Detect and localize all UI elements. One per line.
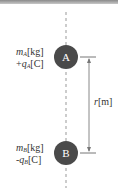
distance-unit: [m] [98, 96, 112, 107]
particle-b-charge-label: -qB[C] [16, 154, 41, 168]
charge-unit: [C] [30, 58, 43, 69]
mass-unit: [kg] [27, 142, 44, 153]
arrowhead-down-icon [87, 147, 91, 152]
charge-unit: [C] [28, 154, 41, 165]
arrowhead-up-icon [87, 58, 91, 63]
distance-label: r[m] [94, 96, 112, 107]
particle-b-letter: B [54, 141, 78, 165]
particle-a-letter: A [54, 45, 78, 69]
mass-unit: [kg] [27, 46, 44, 57]
particle-a-charge-label: +qA[C] [16, 58, 44, 72]
